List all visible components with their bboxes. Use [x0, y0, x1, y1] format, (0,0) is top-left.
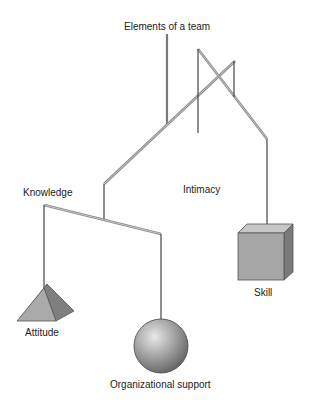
title-label: Elements of a team — [124, 22, 210, 32]
intimacy-label: Intimacy — [183, 185, 220, 195]
lower-rod — [44, 205, 161, 234]
knowledge-rod — [104, 61, 235, 184]
shape-strings — [44, 139, 267, 320]
organizational-support-label: Organizational support — [110, 380, 211, 390]
mobile-diagram: Elements of a team Knowledge Intimacy Sk… — [0, 0, 312, 406]
organizational-support-sphere — [134, 319, 188, 373]
knowledge-label: Knowledge — [23, 188, 72, 198]
attitude-label: Attitude — [25, 328, 59, 338]
skill-label: Skill — [254, 288, 272, 298]
skill-cube — [238, 224, 293, 280]
attitude-prism — [17, 284, 74, 321]
